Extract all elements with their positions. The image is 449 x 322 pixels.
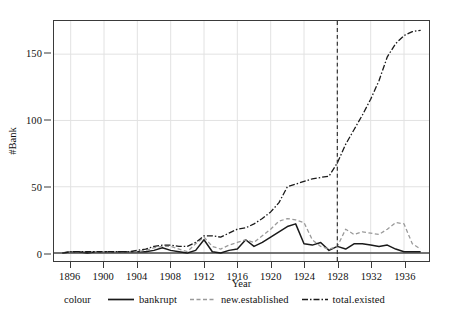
- x-tick-mark: [170, 262, 171, 268]
- y-tick-label: 100: [26, 115, 42, 126]
- solid-line-key: [108, 295, 134, 304]
- y-tick-mark: [44, 253, 51, 254]
- x-axis-title: Year: [53, 278, 430, 289]
- chart-legend: colour bankruptnew.establishedtotal.exis…: [0, 294, 449, 305]
- x-tick-mark: [204, 262, 205, 268]
- y-tick-mark: [44, 187, 51, 188]
- y-axis-title: #Bank: [7, 127, 18, 154]
- annotation-layer: [54, 21, 429, 261]
- x-tick-mark: [70, 262, 71, 268]
- legend-label: bankrupt: [139, 294, 177, 305]
- y-axis: #Bank 050100150: [0, 20, 53, 262]
- plot-panel: [53, 20, 430, 262]
- legend-entry-total.existed[interactable]: total.existed: [302, 294, 385, 305]
- dashdot-line-key: [302, 295, 328, 304]
- y-tick-label: 50: [31, 182, 42, 193]
- y-tick-mark: [44, 120, 51, 121]
- y-tick-mark: [44, 53, 51, 54]
- legend-entry-bankrupt[interactable]: bankrupt: [108, 294, 177, 305]
- x-tick-mark: [304, 262, 305, 268]
- legend-label: new.established: [221, 294, 289, 305]
- y-tick-label: 150: [26, 48, 42, 59]
- x-tick-mark: [271, 262, 272, 268]
- y-tick-label: 0: [37, 248, 42, 259]
- legend-label: total.existed: [333, 294, 385, 305]
- legend-title: colour: [64, 294, 91, 305]
- x-tick-mark: [137, 262, 138, 268]
- x-tick-mark: [338, 262, 339, 268]
- x-tick-mark: [103, 262, 104, 268]
- x-tick-mark: [371, 262, 372, 268]
- x-tick-mark: [237, 262, 238, 268]
- legend-entry-new.established[interactable]: new.established: [190, 294, 289, 305]
- chart-figure: #Bank 050100150 189619001904190819121916…: [0, 0, 449, 322]
- x-tick-mark: [405, 262, 406, 268]
- dashed-line-key: [190, 295, 216, 304]
